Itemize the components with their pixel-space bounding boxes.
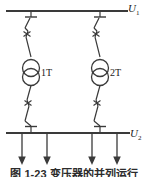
lower-bus-label: U2 [130, 128, 141, 142]
figure-root: U1 U2 1T 2T 图 1-23 变压器的并列运行 [0, 0, 148, 177]
branch-1-conductor-from-transformer [27, 86, 31, 101]
branch-2-disconnector-upper-blade [94, 18, 99, 28]
branch-1-disconnector-upper-blade [25, 18, 30, 28]
lower-bus-label-subscript: 2 [138, 134, 142, 142]
feeder-3-arrow-icon [88, 157, 96, 166]
branch-2-conductor-to-transformer [95, 37, 100, 57]
feeder-arrow-group [18, 157, 121, 166]
branch-1-conductor-lower [25, 106, 29, 121]
feeder-1-arrow-icon [18, 157, 26, 166]
branch-2-group [92, 11, 109, 133]
branch-2-conductor-lower [94, 106, 98, 121]
lower-bus-label-symbol: U [130, 127, 138, 139]
branch-2-conductor-from-transformer [96, 86, 100, 101]
feeder-2-arrow-icon [43, 157, 51, 166]
upper-bus-label-symbol: U [128, 2, 136, 14]
transformer-1-label: 1T [41, 68, 52, 78]
single-line-diagram [0, 0, 148, 177]
feeder-group [22, 133, 117, 158]
transformer-2-label: 2T [110, 68, 121, 78]
upper-bus-label-subscript: 1 [136, 9, 140, 17]
branch-1-conductor-upper [25, 28, 28, 31]
branch-1-group [23, 11, 40, 133]
branch-2-conductor-upper [94, 28, 97, 31]
branch-1-disconnector-lower-blade [25, 121, 31, 126]
upper-bus-label: U1 [128, 3, 139, 17]
branch-1-conductor-to-transformer [26, 37, 31, 57]
feeder-4-arrow-icon [113, 157, 121, 166]
branch-2-disconnector-lower-blade [94, 121, 100, 126]
figure-caption: 图 1-23 变压器的并列运行 [0, 168, 148, 177]
